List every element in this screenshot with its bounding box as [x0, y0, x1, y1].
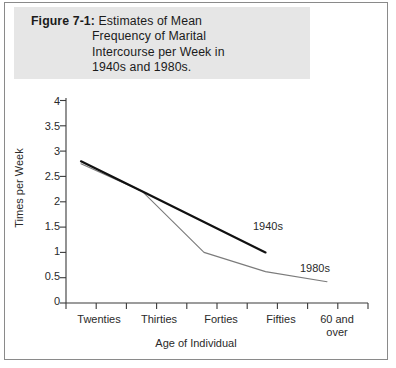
- chart-plot-area: Times per Week Age of Individual 4 3.5 3…: [0, 0, 396, 368]
- chart-svg: [0, 0, 396, 368]
- x-tick-marks: [66, 303, 368, 309]
- y-tick-marks: [60, 101, 66, 304]
- series-line-1940s: [81, 161, 266, 252]
- figure-frame: Figure 7-1: Estimates of Mean Frequency …: [4, 2, 388, 360]
